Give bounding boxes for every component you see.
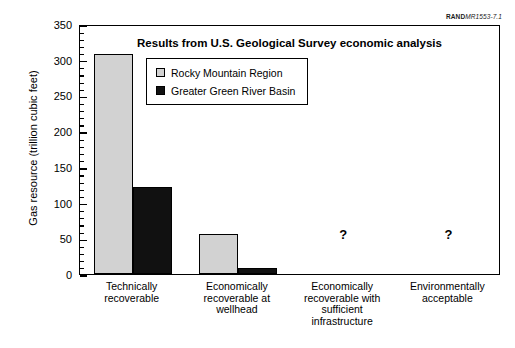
y-tick-minor-120	[80, 190, 84, 191]
y-tick-minor-130	[80, 183, 84, 184]
y-tick-label-350: 350	[54, 19, 72, 31]
y-tick-minor-20	[80, 261, 84, 262]
y-tick-minor-90	[80, 211, 84, 212]
y-tick-label-100: 100	[54, 198, 72, 210]
y-tick-minor-280	[80, 75, 84, 76]
y-tick-major-100	[80, 204, 87, 205]
x-category-label-line: wellhead	[176, 304, 297, 316]
x-category-label-2: Economicallyrecoverable atwellhead	[176, 281, 297, 316]
y-tick-minor-30	[80, 254, 84, 255]
bar-rocky-mountain-1	[94, 54, 133, 274]
x-category-label-4: Environmentallyacceptable	[387, 281, 508, 304]
y-tick-label-50: 50	[60, 233, 72, 245]
y-tick-minor-160	[80, 161, 84, 162]
y-tick-minor-340	[80, 33, 84, 34]
y-tick-minor-290	[80, 68, 84, 69]
x-category-label-line: recoverable	[71, 293, 192, 305]
x-category-label-line: Economically	[282, 281, 403, 293]
y-tick-minor-110	[80, 197, 84, 198]
unknown-value-marker-3: ?	[339, 227, 347, 242]
bar-green-river-1	[133, 187, 172, 274]
x-category-label-line: infrastructure	[282, 316, 403, 328]
y-tick-minor-80	[80, 218, 84, 219]
y-tick-major-150	[80, 168, 87, 169]
legend-item-rocky-mountain: Rocky Mountain Region	[156, 65, 295, 80]
x-category-label-line: Economically	[176, 281, 297, 293]
bar-rocky-mountain-2	[199, 234, 238, 274]
x-category-label-line: sufficient	[282, 304, 403, 316]
y-tick-minor-170	[80, 154, 84, 155]
legend-swatch-rocky-mountain	[156, 68, 165, 77]
y-tick-major-250	[80, 97, 87, 98]
y-tick-minor-230	[80, 111, 84, 112]
legend-label-green-river: Greater Green River Basin	[171, 85, 295, 97]
y-tick-minor-310	[80, 54, 84, 55]
unknown-value-marker-4: ?	[444, 227, 452, 242]
y-tick-label-0: 0	[66, 269, 72, 281]
rand-brand-label: RAND	[446, 13, 465, 20]
y-tick-minor-260	[80, 90, 84, 91]
y-tick-major-200	[80, 132, 87, 133]
y-tick-label-300: 300	[54, 55, 72, 67]
y-tick-label-250: 250	[54, 90, 72, 102]
y-axis-tick-labels: 050100150200250300350	[26, 0, 72, 348]
y-tick-minor-270	[80, 83, 84, 84]
chart-legend: Rocky Mountain Region Greater Green Rive…	[146, 58, 308, 105]
y-tick-minor-320	[80, 47, 84, 48]
y-tick-minor-140	[80, 175, 84, 176]
rand-source-tag: RANDMR1553-7.1	[446, 13, 502, 20]
y-tick-minor-240	[80, 104, 84, 105]
y-tick-minor-220	[80, 118, 84, 119]
y-tick-major-50	[80, 240, 87, 241]
y-tick-minor-10	[80, 268, 84, 269]
y-tick-major-0	[80, 275, 87, 276]
y-tick-major-350	[80, 25, 87, 26]
rand-document-number: MR1553-7.1	[465, 13, 502, 20]
y-tick-minor-210	[80, 125, 84, 126]
x-category-label-line: Technically	[71, 281, 192, 293]
x-category-label-line: acceptable	[387, 293, 508, 305]
plot-area: Results from U.S. Geological Survey econ…	[79, 25, 500, 275]
y-tick-minor-180	[80, 147, 84, 148]
x-category-label-1: Technicallyrecoverable	[71, 281, 192, 304]
y-tick-minor-190	[80, 140, 84, 141]
bar-green-river-2	[238, 268, 277, 274]
legend-item-green-river: Greater Green River Basin	[156, 83, 295, 98]
plot-inner: Results from U.S. Geological Survey econ…	[80, 26, 499, 274]
y-tick-label-150: 150	[54, 162, 72, 174]
legend-label-rocky-mountain: Rocky Mountain Region	[171, 67, 282, 79]
chart-figure: RANDMR1553-7.1 Gas resource (trillion cu…	[0, 0, 515, 348]
legend-swatch-green-river	[156, 86, 165, 95]
y-tick-minor-60	[80, 233, 84, 234]
x-axis-category-labels: TechnicallyrecoverableEconomicallyrecove…	[79, 281, 500, 345]
x-category-label-3: Economicallyrecoverable withsufficientin…	[282, 281, 403, 327]
y-tick-major-300	[80, 61, 87, 62]
y-tick-label-200: 200	[54, 126, 72, 138]
chart-title: Results from U.S. Geological Survey econ…	[80, 37, 499, 49]
y-tick-minor-330	[80, 40, 84, 41]
y-tick-minor-40	[80, 247, 84, 248]
y-tick-minor-70	[80, 225, 84, 226]
x-category-label-line: Environmentally	[387, 281, 508, 293]
